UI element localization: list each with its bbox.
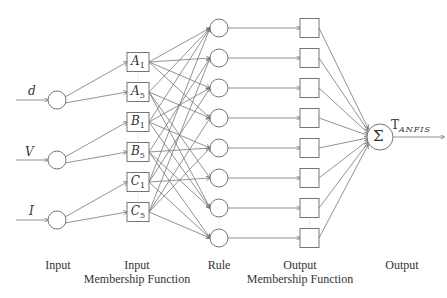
output-mf-node	[300, 49, 319, 68]
rule-node	[210, 169, 228, 187]
rule-node	[210, 199, 228, 217]
mf-a5: A5	[127, 84, 149, 100]
input-label-v: V	[25, 145, 34, 159]
output-mf-node	[300, 79, 319, 98]
layer-label-output: Output	[380, 258, 424, 272]
rule-node	[210, 79, 228, 97]
output-label: TANFIS	[391, 118, 431, 134]
output-mf-node	[300, 229, 319, 248]
input-label-i: I	[29, 204, 34, 218]
output-mf-node	[300, 19, 319, 38]
layer-label-input-mf: InputMembership Function	[80, 258, 194, 286]
mf-c5: C5	[127, 204, 149, 220]
layer-label-output-mf: OutputMembership Function	[242, 258, 358, 286]
input-label-d: d	[28, 84, 36, 98]
output-mf-node	[300, 199, 319, 218]
anfis-network	[0, 0, 447, 298]
input-node	[48, 91, 66, 109]
rule-node	[210, 229, 228, 247]
mf-c1: C1	[127, 174, 149, 190]
output-mf-node	[300, 109, 319, 128]
layer-label-input: Input	[38, 258, 78, 272]
rule-node	[210, 19, 228, 37]
rule-node	[210, 49, 228, 67]
mf-b5: B5	[127, 144, 149, 160]
output-mf-node	[300, 139, 319, 158]
input-node	[48, 151, 66, 169]
rule-node	[210, 139, 228, 157]
mf-a1: A1	[127, 54, 149, 70]
input-node	[48, 211, 66, 229]
sum-icon: Σ	[373, 127, 384, 145]
rule-node	[210, 109, 228, 127]
mf-b1: B1	[127, 114, 149, 130]
layer-label-rule: Rule	[204, 258, 234, 272]
output-mf-node	[300, 169, 319, 188]
